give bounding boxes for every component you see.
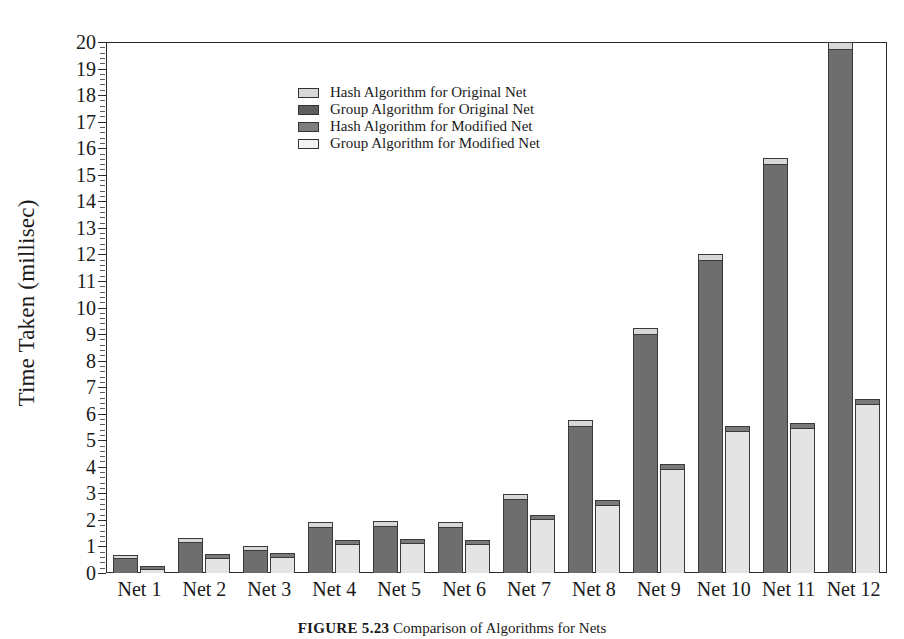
bar-stack-modified[interactable]	[595, 500, 620, 573]
y-tick-minor	[100, 472, 105, 473]
bar-segment-group-original[interactable]	[308, 527, 333, 573]
bar-segment-group-modified[interactable]	[465, 544, 490, 573]
bar-segment-group-modified[interactable]	[205, 558, 230, 573]
y-tick-minor	[100, 265, 105, 266]
y-tick-minor	[100, 297, 105, 298]
y-tick-minor	[100, 318, 105, 319]
bar-segment-group-modified[interactable]	[270, 557, 295, 573]
bar-stack-original[interactable]	[828, 42, 853, 573]
bar-stack-modified[interactable]	[530, 515, 555, 573]
bar-segment-group-original[interactable]	[113, 558, 138, 573]
bar-stack-original[interactable]	[438, 522, 463, 573]
bar-group	[172, 43, 237, 573]
y-tick-minor	[100, 191, 105, 192]
bar-group	[626, 43, 691, 573]
bar-segment-group-original[interactable]	[568, 426, 593, 573]
y-tick-minor	[100, 127, 105, 128]
y-tick-minor	[100, 371, 105, 372]
bar-segment-group-original[interactable]	[438, 527, 463, 573]
y-tick-label: 14	[0, 190, 96, 213]
bar-segment-group-original[interactable]	[178, 542, 203, 573]
bar-stack-original[interactable]	[503, 494, 528, 573]
y-tick-minor	[100, 276, 105, 277]
bar-segment-group-original[interactable]	[243, 550, 268, 573]
bar-stack-modified[interactable]	[205, 554, 230, 573]
bar-stack-modified[interactable]	[140, 566, 165, 573]
y-tick-major	[98, 520, 106, 521]
bar-stack-original[interactable]	[568, 420, 593, 573]
y-tick-minor	[100, 84, 105, 85]
bar-segment-group-modified[interactable]	[855, 404, 880, 573]
y-tick-minor	[100, 531, 105, 532]
y-tick-minor	[100, 223, 105, 224]
y-tick-minor	[100, 392, 105, 393]
bar-stack-modified[interactable]	[855, 399, 880, 573]
legend-label: Group Algorithm for Modified Net	[330, 136, 540, 151]
y-tick-minor	[100, 249, 105, 250]
legend-item: Hash Algorithm for Modified Net	[298, 118, 540, 135]
y-tick-minor	[100, 562, 105, 563]
bar-segment-group-modified[interactable]	[530, 519, 555, 573]
y-tick-major	[98, 148, 106, 149]
bar-segment-group-modified[interactable]	[660, 469, 685, 573]
y-tick-minor	[100, 207, 105, 208]
bar-segment-group-original[interactable]	[373, 526, 398, 573]
bar-stack-original[interactable]	[763, 158, 788, 573]
bar-segment-group-original[interactable]	[633, 334, 658, 573]
x-tick-label: Net 3	[237, 578, 302, 601]
bar-segment-group-modified[interactable]	[790, 428, 815, 573]
y-tick-minor	[100, 313, 105, 314]
bar-stack-modified[interactable]	[790, 423, 815, 573]
bar-segment-group-original[interactable]	[698, 260, 723, 573]
bar-segment-group-modified[interactable]	[140, 569, 165, 573]
legend-label: Group Algorithm for Original Net	[330, 102, 534, 117]
chart-legend: Hash Algorithm for Original NetGroup Alg…	[298, 84, 540, 152]
bar-stack-original[interactable]	[698, 254, 723, 573]
bar-segment-group-modified[interactable]	[725, 431, 750, 573]
bar-stack-original[interactable]	[113, 555, 138, 573]
bar-group	[107, 43, 172, 573]
bar-stack-original[interactable]	[243, 546, 268, 573]
figure-number: FIGURE 5.23	[298, 620, 390, 636]
y-tick-major	[98, 493, 106, 494]
bar-segment-group-original[interactable]	[828, 49, 853, 573]
y-tick-minor	[100, 430, 105, 431]
bar-segment-group-modified[interactable]	[400, 543, 425, 573]
y-tick-minor	[100, 461, 105, 462]
bar-stack-modified[interactable]	[335, 540, 360, 573]
bar-segment-group-modified[interactable]	[595, 505, 620, 573]
y-tick-minor	[100, 47, 105, 48]
bar-group	[756, 43, 821, 573]
y-tick-label: 0	[0, 562, 96, 585]
bar-stack-original[interactable]	[633, 328, 658, 573]
bar-stack-modified[interactable]	[660, 464, 685, 573]
y-tick-minor	[100, 143, 105, 144]
y-tick-label: 15	[0, 163, 96, 186]
bar-stack-original[interactable]	[308, 522, 333, 573]
y-tick-major	[98, 175, 106, 176]
bar-segment-group-modified[interactable]	[335, 544, 360, 573]
y-tick-major	[98, 467, 106, 468]
y-tick-minor	[100, 382, 105, 383]
y-tick-minor	[100, 169, 105, 170]
bar-stack-modified[interactable]	[400, 539, 425, 573]
bar-segment-hash-original[interactable]	[828, 42, 853, 49]
bar-stack-original[interactable]	[178, 538, 203, 573]
y-tick-minor	[100, 339, 105, 340]
legend-swatch-icon	[298, 122, 319, 132]
x-tick-label: Net 6	[432, 578, 497, 601]
y-tick-label: 11	[0, 269, 96, 292]
bar-stack-modified[interactable]	[725, 426, 750, 573]
y-tick-minor	[100, 536, 105, 537]
x-tick-label: Net 11	[756, 578, 821, 601]
figure-caption: FIGURE 5.23 Comparison of Algorithms for…	[0, 620, 904, 639]
bar-stack-modified[interactable]	[270, 553, 295, 573]
bar-stack-modified[interactable]	[465, 540, 490, 573]
y-tick-label: 1	[0, 535, 96, 558]
bar-segment-group-original[interactable]	[763, 164, 788, 573]
x-tick-label: Net 10	[691, 578, 756, 601]
bar-segment-group-original[interactable]	[503, 499, 528, 573]
y-tick-major	[98, 228, 106, 229]
x-tick-label: Net 9	[626, 578, 691, 601]
bar-stack-original[interactable]	[373, 521, 398, 573]
